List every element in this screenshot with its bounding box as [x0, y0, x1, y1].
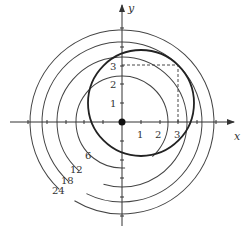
level-label-12: 12: [70, 164, 83, 175]
level-curve-24: [0, 0, 242, 228]
y-tick-label-1: 1: [110, 98, 116, 109]
level-label-24: 24: [52, 185, 65, 196]
y-axis-label: y: [127, 2, 135, 15]
level-curves: [0, 0, 242, 228]
dashed-guide: [122, 65, 178, 122]
origin-dot: [119, 119, 126, 126]
x-tick-label-2: 2: [155, 129, 161, 140]
x-tick-label-1: 1: [137, 129, 143, 140]
x-tick-label-3: 3: [174, 129, 180, 140]
level-label-6: 6: [85, 150, 91, 161]
level-curve-diagram: x y 1 2 3 1 2 3 6 12 18 24: [0, 0, 242, 228]
y-tick-label-2: 2: [110, 79, 116, 90]
x-axis-label: x: [234, 130, 241, 143]
y-tick-label-3: 3: [110, 61, 116, 72]
